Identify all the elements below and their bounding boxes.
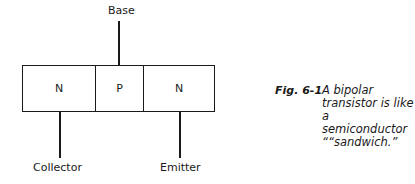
layer-label: P [116,82,123,95]
emitter-lead [179,112,181,158]
emitter-label: Emitter [160,161,201,174]
base-label: Base [108,4,135,17]
collector-label: Collector [33,161,82,174]
npn-sandwich: N P N [22,65,215,112]
p-layer-base: P [95,66,143,111]
layer-label: N [55,82,63,95]
n-layer-emitter: N [143,66,214,111]
figure-number: Fig. 6-1 [275,84,322,97]
layer-label: N [175,82,183,95]
n-layer-collector: N [23,66,95,111]
collector-lead [59,112,61,158]
figure-caption: A bipolar transistor is like a semicondu… [322,84,415,149]
base-lead [118,21,120,65]
